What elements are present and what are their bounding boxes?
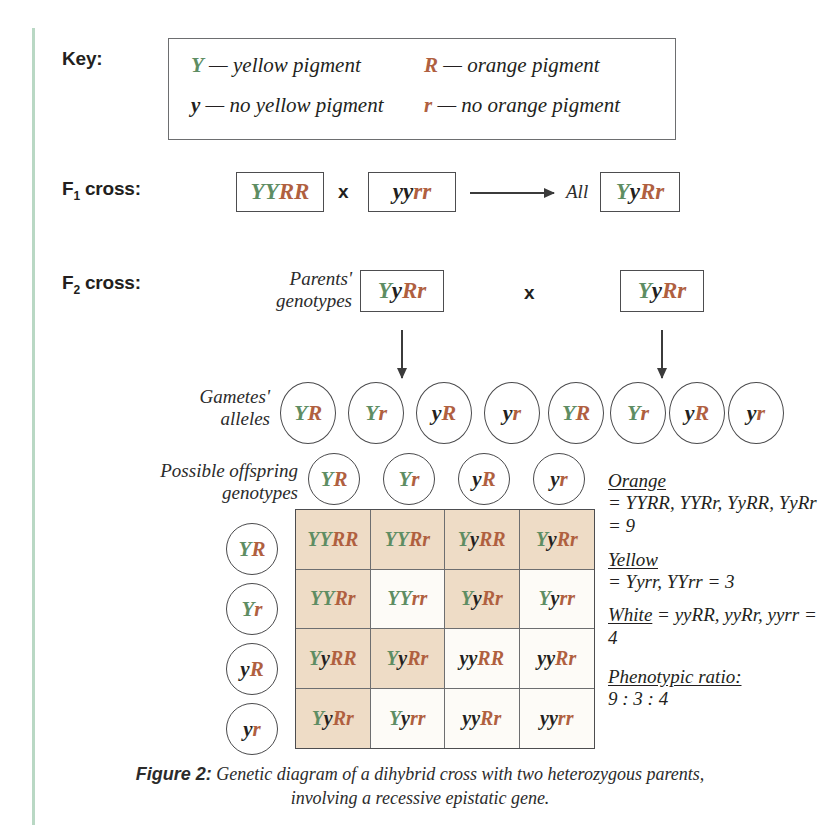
f1-parent-right-box: yyrr [368,172,456,212]
figure-caption: Figure 2: Genetic diagram of a dihybrid … [120,762,720,811]
punnett-cell-1-1: YYrr [371,570,446,630]
f1-cross-label: F1 cross: [62,178,141,203]
gamete-right-0: YR [548,382,604,444]
f2-label-tail: cross: [80,272,141,293]
legend-head-yellow: Yellow [608,549,823,571]
key-text-y: — no yellow pigment [206,93,384,117]
punnett-cell-3-2: yyRr [445,689,520,749]
punnett-col-header-2: yR [458,453,510,505]
f2-cross-label: F2 cross: [62,272,141,297]
parents-label-line2: genotypes [222,290,352,312]
gamete-right-2: yR [669,382,725,444]
punnett-cell-1-0: YYRr [296,570,371,630]
punnett-col-header-0: YR [308,453,360,505]
key-symbol-r: r [424,93,432,117]
gamete-right-1: Yr [610,382,666,444]
punnett-cell-3-3: yyrr [520,689,595,749]
punnett-cell-2-0: YyRR [296,629,371,689]
legend-block-yellow: Yellow = Yyrr, YYrr = 3 [608,549,823,594]
f1-label-tail: cross: [80,178,141,199]
punnett-row-header-2: yR [226,643,278,695]
gamete-left-1: Yr [348,382,404,444]
caption-figure-number: Figure 2: [136,764,212,784]
key-entry-Y: Y — yellow pigment [191,53,361,78]
punnett-cell-0-0: YYRR [296,510,371,570]
gamete-left-0: YR [280,382,336,444]
punnett-row-header-3: yr [226,703,278,755]
f1-result-prefix: All [566,181,588,203]
key-symbol-Y: Y [191,53,204,77]
caption-text: Genetic diagram of a dihybrid cross with… [216,764,704,808]
punnett-cell-2-3: yyRr [520,629,595,689]
offspring-genotypes-label: Possible offspring genotypes [108,460,298,505]
left-green-rule [32,28,35,825]
offspring-label-line2: genotypes [108,482,298,504]
legend-head-ratio: Phenotypic ratio: [608,666,823,688]
key-text-r: — no orange pigment [437,93,620,117]
punnett-cell-1-3: Yyrr [520,570,595,630]
f2-parent-left-box: YyRr [360,270,444,312]
f1-result-box: YyRr [600,172,680,212]
legend-block-white: White = yyRR, yyRr, yyrr = 4 [608,604,823,650]
f1-parent-right-genotype: yyrr [393,179,431,205]
punnett-col-header-1: Yr [383,453,435,505]
f1-label-main: F [62,178,73,199]
f1-parent-left-genotype: YYRR [251,179,310,205]
legend-body-ratio: 9 : 3 : 4 [608,688,823,711]
f1-cross-symbol: x [338,181,349,203]
gametes-label-line1: Gametes' [148,386,270,408]
key-label: Key: [62,48,102,70]
punnett-col-header-3: yr [533,453,585,505]
figure-root: Key: Y — yellow pigment R — orange pigme… [0,0,827,825]
legend-block-ratio: Phenotypic ratio: 9 : 3 : 4 [608,666,823,711]
f1-result-arrow [470,192,554,194]
punnett-cell-3-1: Yyrr [371,689,446,749]
f1-result-genotype: YyRr [616,179,665,205]
legend-block-orange: Orange = YYRR, YYRr, YyRR, YyRr = 9 [608,470,823,538]
f2-parent-right-genotype: YyRr [638,278,687,304]
key-text-R: — orange pigment [443,53,599,77]
punnett-cell-1-2: YyRr [445,570,520,630]
key-entry-r: r — no orange pigment [424,93,620,118]
f2-label-main: F [62,272,73,293]
legend-head-orange: Orange [608,470,823,492]
parents-genotypes-label: Parents' genotypes [222,268,352,313]
key-entry-y: y — no yellow pigment [191,93,383,118]
legend-body-yellow: = Yyrr, YYrr = 3 [608,571,823,594]
key-entry-R: R — orange pigment [424,53,600,78]
offspring-label-line1: Possible offspring [108,460,298,482]
legend-body-white: White = yyRR, yyRr, yyrr = 4 [608,604,823,650]
f2-parent-right-arrow [661,330,663,378]
f2-cross-symbol: x [524,282,535,304]
punnett-row-header-0: YR [226,523,278,575]
key-box: Y — yellow pigment R — orange pigment y … [168,38,676,140]
gamete-left-2: yR [416,382,472,444]
legend-head-white: White [608,604,652,625]
f2-parent-left-arrow [401,330,403,378]
phenotype-legend: Orange = YYRR, YYRr, YyRR, YyRr = 9 Yell… [608,470,823,722]
punnett-cell-2-1: YyRr [371,629,446,689]
gametes-label-line2: alleles [148,408,270,430]
key-symbol-y: y [191,93,200,117]
parents-label-line1: Parents' [222,268,352,290]
punnett-cell-2-2: yyRR [445,629,520,689]
punnett-square: YYRRYYRrYyRRYyRrYYRrYYrrYyRrYyrrYyRRYyRr… [295,509,595,749]
gamete-right-3: yr [728,382,784,444]
f2-parent-right-box: YyRr [620,270,704,312]
f2-parent-left-genotype: YyRr [378,278,427,304]
f1-parent-left-box: YYRR [236,172,324,212]
gametes-alleles-label: Gametes' alleles [148,386,270,431]
punnett-cell-0-3: YyRr [520,510,595,570]
punnett-cell-0-2: YyRR [445,510,520,570]
key-text-Y: — yellow pigment [209,53,361,77]
punnett-cell-3-0: YyRr [296,689,371,749]
punnett-cell-0-1: YYRr [371,510,446,570]
key-symbol-R: R [424,53,438,77]
legend-body-orange: = YYRR, YYRr, YyRR, YyRr = 9 [608,492,823,538]
punnett-row-header-1: Yr [226,583,278,635]
gamete-left-3: yr [484,382,540,444]
